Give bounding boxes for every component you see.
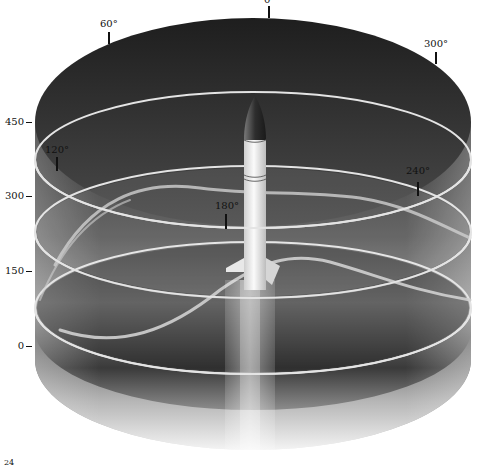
altitude-tick-450 — [26, 122, 32, 123]
altitude-tick-300 — [26, 196, 32, 197]
altitude-tick-150 — [26, 271, 32, 272]
altitude-label-0: 0 — [2, 341, 24, 351]
cylinder-illustration — [0, 0, 487, 465]
azimuth-label-60: 60° — [100, 19, 118, 29]
corner-text-fragment: 24 — [4, 459, 14, 465]
altitude-label-300: 300 — [2, 191, 24, 201]
azimuth-label-240: 240° — [406, 166, 430, 176]
rocket-wind-diagram: 0° 60° 300° 120° 240° 180° 450 300 150 0… — [0, 0, 487, 465]
azimuth-label-0: 0° — [264, 0, 275, 5]
azimuth-label-300: 300° — [424, 39, 448, 49]
altitude-tick-0 — [26, 346, 32, 347]
rocket-body — [244, 140, 266, 290]
altitude-label-450: 450 — [2, 117, 24, 127]
azimuth-label-180: 180° — [215, 201, 239, 211]
azimuth-label-120: 120° — [45, 145, 69, 155]
altitude-label-150: 150 — [2, 266, 24, 276]
